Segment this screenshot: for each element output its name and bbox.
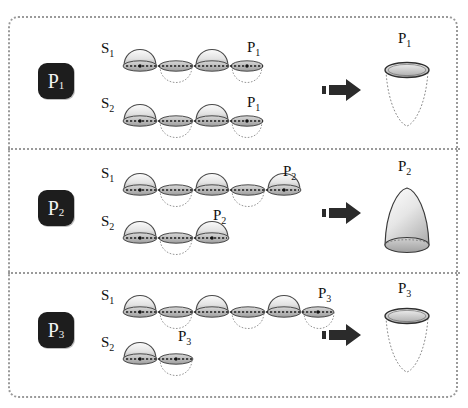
wave-p1-s1 xyxy=(122,40,267,92)
implies-arrow-p2 xyxy=(322,200,362,226)
panel-p3: P3 S1 P3 xyxy=(0,274,468,396)
result-shape-p3-cone-down xyxy=(378,304,438,376)
row-end-label-p1-s2: P1 xyxy=(247,94,260,113)
panel-badge-sub: 2 xyxy=(59,207,65,218)
end-label-sub: 1 xyxy=(255,102,260,113)
row-label-s1: S1 xyxy=(101,165,114,184)
end-label-sub: 2 xyxy=(221,215,226,226)
figure-root: P1 S1 xyxy=(0,0,468,408)
wave-p3-s1 xyxy=(122,286,337,338)
row-label-s2: S2 xyxy=(101,95,114,114)
row-label-s1: S1 xyxy=(101,40,114,59)
panel-badge-p2: P2 xyxy=(38,190,74,226)
panel-badge-p1: P1 xyxy=(38,63,74,99)
row-end-label-p2-s1: P2 xyxy=(283,163,296,182)
result-label-sub: 2 xyxy=(406,166,411,177)
panel-badge-letter: P xyxy=(48,320,59,340)
wave-p1-s2 xyxy=(122,95,267,147)
result-label-sub: 3 xyxy=(406,288,411,299)
end-label-sub: 3 xyxy=(326,293,331,304)
row-label-sub: 1 xyxy=(109,173,114,184)
wave-p2-s1 xyxy=(122,164,302,216)
panel-p1: P1 S1 xyxy=(0,18,468,148)
row-label-s2: S2 xyxy=(101,213,114,232)
row-end-label-p2-s2: P2 xyxy=(213,207,226,226)
row-label-s2: S2 xyxy=(101,334,114,353)
result-label-p1: P1 xyxy=(398,30,411,49)
row-label-sub: 1 xyxy=(109,48,114,59)
end-label-sub: 2 xyxy=(291,171,296,182)
row-end-label-p3-s2: P3 xyxy=(178,328,191,347)
result-label-sub: 1 xyxy=(406,38,411,49)
result-label-p3: P3 xyxy=(398,280,411,299)
panel-p2: P2 S1 P2 xyxy=(0,150,468,272)
row-label-sub: 2 xyxy=(109,342,114,353)
end-label-sub: 3 xyxy=(186,336,191,347)
row-label-sub: 2 xyxy=(109,103,114,114)
panel-badge-sub: 1 xyxy=(59,80,65,91)
panel-badge-p3: P3 xyxy=(38,312,74,348)
row-label-sub: 1 xyxy=(109,295,114,306)
row-label-sub: 2 xyxy=(109,221,114,232)
result-label-p2: P2 xyxy=(398,158,411,177)
panel-badge-letter: P xyxy=(48,71,59,91)
row-end-label-p1-s1: P1 xyxy=(247,39,260,58)
result-shape-p2-dome-up xyxy=(378,182,438,258)
result-shape-p1-cone-down xyxy=(378,58,438,130)
panel-badge-sub: 3 xyxy=(59,329,65,340)
implies-arrow-p3 xyxy=(322,322,362,348)
panel-badge-letter: P xyxy=(48,198,59,218)
row-label-s1: S1 xyxy=(101,287,114,306)
row-end-label-p3-s1: P3 xyxy=(318,285,331,304)
implies-arrow-p1 xyxy=(322,77,362,103)
end-label-sub: 1 xyxy=(255,47,260,58)
